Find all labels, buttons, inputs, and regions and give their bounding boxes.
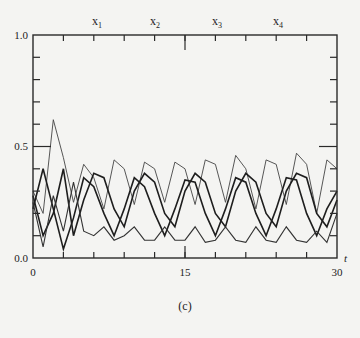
- y-tick-label-0-0: 0.0: [14, 252, 28, 264]
- plot-lines: [33, 120, 337, 249]
- x-tick-label-30: 30: [332, 266, 344, 278]
- legend-x2: x2: [150, 14, 160, 30]
- legend: x1 x2 x3 x4: [92, 14, 283, 30]
- legend-x1: x1: [92, 14, 102, 30]
- x-tick-label-15: 15: [180, 266, 192, 278]
- plot-frame: [33, 35, 337, 258]
- y-tick-label-1-0: 1.0: [14, 29, 28, 41]
- x-axis-label: t: [344, 252, 348, 264]
- chart-figure: 1.0 0.5 0.0 0 15 30 t x1 x2 x3 x4 (c): [0, 0, 360, 338]
- axis-ticks: [33, 35, 337, 258]
- legend-x4: x4: [273, 14, 283, 30]
- legend-x3: x3: [212, 14, 222, 30]
- x-tick-label-0: 0: [30, 266, 36, 278]
- y-tick-label-0-5: 0.5: [14, 140, 28, 152]
- figure-caption: (c): [178, 299, 191, 313]
